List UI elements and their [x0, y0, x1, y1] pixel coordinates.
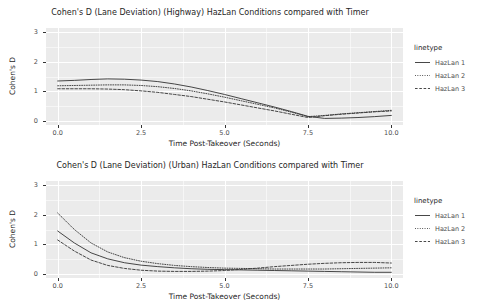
y-axis-tick-mark	[43, 274, 46, 275]
x-axis-tick-mark	[391, 125, 392, 128]
y-axis-label: Cohen's D	[8, 57, 17, 95]
x-axis-tick-mark	[391, 278, 392, 281]
legend-item-hazlan-3[interactable]: HazLan 3	[414, 236, 485, 247]
x-axis-tick-label: 0.0	[53, 282, 63, 290]
y-axis-tick-mark	[43, 185, 46, 186]
y-axis-label: Cohen's D	[8, 210, 17, 248]
y-axis-tick-label: 0	[6, 270, 38, 278]
legend-item-hazlan-3[interactable]: HazLan 3	[414, 83, 485, 94]
x-axis-tick-mark	[225, 278, 226, 281]
legend-item-label: HazLan 2	[435, 72, 465, 80]
legend-item-label: HazLan 2	[435, 225, 465, 233]
legend-item-hazlan-1[interactable]: HazLan 1	[414, 210, 485, 221]
legend-key-dashed-line-icon	[414, 83, 431, 94]
legend: linetypeHazLan 1HazLan 2HazLan 3	[414, 44, 485, 96]
chart-panel-highway: Cohen's D (Lane Deviation) (Highway) Haz…	[0, 0, 485, 153]
plot-area	[46, 28, 403, 125]
y-axis-tick-mark	[43, 62, 46, 63]
legend-item-label: HazLan 3	[435, 238, 465, 246]
x-axis-tick-mark	[58, 278, 59, 281]
x-axis-label: Time Post-Takeover (Seconds)	[46, 139, 403, 148]
series-line-hazlan-2	[58, 213, 392, 269]
y-axis-tick-mark	[43, 91, 46, 92]
y-axis-tick-mark	[43, 215, 46, 216]
x-axis-tick-mark	[58, 125, 59, 128]
y-axis-tick-label: 3	[6, 181, 38, 189]
y-axis-tick-label: 0	[6, 117, 38, 125]
x-axis-tick-mark	[141, 125, 142, 128]
y-axis-tick-mark	[43, 244, 46, 245]
legend-item-label: HazLan 1	[435, 212, 465, 220]
series-layer	[46, 181, 403, 278]
chart-panel-urban: Cohen's D (Lane Deviation) (Urban) HazLa…	[0, 153, 485, 306]
legend: linetypeHazLan 1HazLan 2HazLan 3	[414, 197, 485, 249]
plot-area	[46, 181, 403, 278]
legend-item-hazlan-2[interactable]: HazLan 2	[414, 70, 485, 81]
x-axis-tick-mark	[308, 278, 309, 281]
x-axis-tick-label: 7.5	[303, 129, 313, 137]
x-axis-tick-mark	[141, 278, 142, 281]
x-axis-tick-mark	[225, 125, 226, 128]
y-axis-tick-label: 3	[6, 28, 38, 36]
chart-title: Cohen's D (Lane Deviation) (Urban) HazLa…	[0, 161, 420, 170]
legend-item-hazlan-1[interactable]: HazLan 1	[414, 57, 485, 68]
legend-title: linetype	[414, 44, 485, 52]
legend-key-dotted-line-icon	[414, 70, 431, 81]
legend-key-solid-line-icon	[414, 57, 431, 68]
legend-key-solid-line-icon	[414, 210, 431, 221]
series-layer	[46, 28, 403, 125]
legend-key-dotted-line-icon	[414, 223, 431, 234]
legend-title: linetype	[414, 197, 485, 205]
series-line-hazlan-3	[58, 89, 392, 118]
x-axis-tick-label: 2.5	[136, 129, 146, 137]
legend-item-label: HazLan 3	[435, 85, 465, 93]
legend-key-dashed-line-icon	[414, 236, 431, 247]
series-line-hazlan-1	[58, 231, 392, 272]
x-axis-tick-label: 2.5	[136, 282, 146, 290]
x-axis-tick-mark	[308, 125, 309, 128]
x-axis-tick-label: 10.0	[384, 282, 398, 290]
series-line-hazlan-3	[58, 240, 392, 271]
x-axis-tick-label: 0.0	[53, 129, 63, 137]
series-line-hazlan-2	[58, 85, 392, 117]
y-axis-tick-mark	[43, 121, 46, 122]
y-axis-tick-mark	[43, 32, 46, 33]
legend-item-label: HazLan 1	[435, 59, 465, 67]
figure-root: Cohen's D (Lane Deviation) (Highway) Haz…	[0, 0, 485, 306]
x-axis-tick-label: 7.5	[303, 282, 313, 290]
x-axis-tick-label: 5.0	[219, 129, 229, 137]
chart-title: Cohen's D (Lane Deviation) (Highway) Haz…	[0, 8, 420, 17]
x-axis-tick-label: 10.0	[384, 129, 398, 137]
x-axis-tick-label: 5.0	[219, 282, 229, 290]
x-axis-label: Time Post-Takeover (Seconds)	[46, 292, 403, 301]
legend-item-hazlan-2[interactable]: HazLan 2	[414, 223, 485, 234]
